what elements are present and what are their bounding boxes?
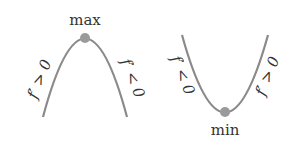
max-left-slope-label: f′ > 0 [23,57,55,103]
max-point [80,33,90,43]
min-right-slope-label: f′ > 0 [251,54,283,100]
min-label: min [211,121,240,139]
max-label: max [69,11,101,29]
concave-down-curve [43,39,127,118]
extrema-diagram: max f′ > 0 f′ < 0 min f′ < 0 f′ > 0 [0,0,290,149]
min-point [220,107,230,117]
concave-up-curve [182,35,268,113]
max-panel: max f′ > 0 f′ < 0 [23,11,149,117]
min-panel: min f′ < 0 f′ > 0 [166,35,283,139]
